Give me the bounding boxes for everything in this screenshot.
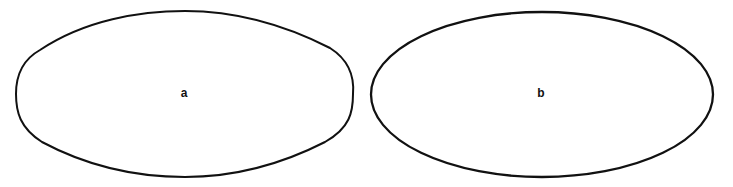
shape-a: a [16, 11, 353, 177]
shape-b: b [371, 12, 713, 177]
shape-comparison-figure: a b [0, 0, 733, 187]
shape-a-label: a [181, 86, 188, 100]
shape-b-label: b [537, 86, 544, 100]
